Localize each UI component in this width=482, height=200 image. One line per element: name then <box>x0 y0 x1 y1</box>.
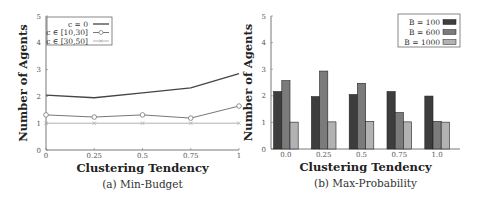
y-tick-label: 1 <box>37 120 41 128</box>
figure-caption: (b) Max-Probability <box>314 177 417 189</box>
y-tick-label: 5 <box>262 13 266 21</box>
legend-label: B = 100 <box>409 18 440 27</box>
legend-swatch <box>443 30 456 35</box>
circle-marker-icon <box>92 115 97 120</box>
x-axis-label: Clustering Tendency <box>299 160 431 174</box>
figure: 012345Number of AgentsClustering Tendenc… <box>0 0 482 200</box>
bar <box>403 122 411 149</box>
y-tick-label: 2 <box>37 93 41 101</box>
y-tick-label: 3 <box>262 66 266 74</box>
legend-swatch <box>443 40 456 45</box>
x-axis-label: Clustering Tendency <box>76 161 208 175</box>
y-tick-label: 5 <box>37 13 41 21</box>
y-tick-label: 4 <box>262 39 267 47</box>
figure-caption: (a) Min-Budget <box>102 178 183 190</box>
series-line-0 <box>46 74 239 98</box>
bar <box>366 121 374 149</box>
y-axis-label: Number of Agents <box>241 24 255 142</box>
y-tick-label: 4 <box>37 39 42 47</box>
y-tick-label: 3 <box>37 66 41 74</box>
x-tick-label: 1 <box>237 152 241 160</box>
legend-label: B = 600 <box>409 28 440 37</box>
bar <box>311 97 319 149</box>
x-tick-label: 0.5 <box>137 152 148 160</box>
bar <box>328 122 336 149</box>
bar <box>290 122 298 149</box>
x-tick-label: 0.25 <box>86 152 102 160</box>
x-tick-label: 0.0 <box>280 151 291 159</box>
bar <box>349 94 357 149</box>
bar <box>274 92 282 149</box>
circle-marker-icon <box>44 113 49 118</box>
y-tick-label: 2 <box>262 92 266 100</box>
y-tick-label: 1 <box>262 119 266 127</box>
y-axis-label: Number of Agents <box>16 24 30 142</box>
y-tick-label: 0 <box>37 147 41 155</box>
y-tick-label: 0 <box>262 146 266 154</box>
x-tick-label: 0.75 <box>392 151 408 159</box>
x-tick-label: 0 <box>44 152 48 160</box>
x-tick-label: 0.75 <box>183 152 199 160</box>
bar <box>320 71 328 149</box>
x-tick-label: 1.0 <box>432 151 443 159</box>
legend-swatch <box>443 20 456 25</box>
legend: c = 0c ∈ [10,30]c ∈ [30,50] <box>46 17 112 46</box>
max-probability-bar-chart: 012345Number of AgentsClustering Tendenc… <box>241 13 460 190</box>
legend-label: c ∈ [30,50] <box>46 37 88 46</box>
circle-marker-icon <box>188 116 193 121</box>
bar <box>441 122 449 149</box>
legend: B = 100B = 600B = 1000 <box>398 14 460 47</box>
x-tick-label: 0.25 <box>316 151 332 159</box>
bar <box>282 81 290 149</box>
bar <box>395 113 403 149</box>
bar <box>433 121 441 149</box>
x-tick-label: 0.5 <box>356 151 367 159</box>
bar <box>387 92 395 149</box>
circle-marker-icon <box>99 31 103 35</box>
bar <box>425 96 433 149</box>
min-budget-line-chart: 012345Number of AgentsClustering Tendenc… <box>16 13 241 191</box>
bar <box>357 83 365 149</box>
circle-marker-icon <box>140 113 145 118</box>
legend-label: B = 1000 <box>404 38 440 47</box>
